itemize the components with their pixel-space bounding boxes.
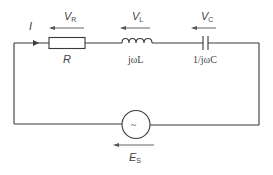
current-arrow bbox=[33, 40, 39, 46]
current-label: I bbox=[29, 20, 32, 32]
inductor bbox=[122, 39, 152, 44]
capacitor bbox=[203, 36, 208, 50]
vr-label: VR bbox=[64, 10, 76, 23]
vl-arrow bbox=[120, 26, 150, 30]
resistor bbox=[49, 38, 85, 49]
vl-label: VL bbox=[132, 10, 143, 23]
es-label: ES bbox=[129, 151, 141, 164]
ac-source-glyph: ~ bbox=[131, 119, 137, 130]
capacitor-label: 1/jωC bbox=[193, 54, 217, 65]
es-arrow bbox=[113, 143, 154, 147]
inductor-label: jωL bbox=[127, 54, 143, 65]
vr-arrow bbox=[49, 26, 84, 30]
vc-label: VC bbox=[201, 10, 213, 23]
circuit-diagram: I R jωL 1/jωC VR VL VC ~ ES bbox=[0, 0, 273, 175]
resistor-label: R bbox=[63, 53, 71, 65]
vc-arrow bbox=[191, 26, 216, 30]
